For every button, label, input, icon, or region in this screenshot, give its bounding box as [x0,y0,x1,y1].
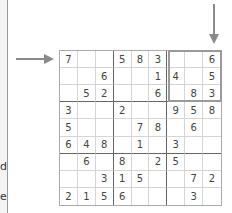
column-indicator-arrow-icon [213,4,215,34]
sudoku-cell[interactable] [167,171,185,188]
sudoku-cell[interactable]: 7 [60,51,78,68]
sudoku-cell[interactable] [185,154,203,171]
sudoku-cell[interactable]: 3 [60,102,78,119]
sudoku-cell[interactable]: 2 [96,85,114,102]
sudoku-cell[interactable]: 4 [167,68,185,85]
sudoku-cell[interactable] [167,119,185,136]
sudoku-cell[interactable] [60,154,78,171]
sudoku-cell[interactable]: 8 [149,119,167,136]
sudoku-cell[interactable] [149,137,167,154]
left-panel-strip [0,0,8,213]
sudoku-cell[interactable] [149,188,167,205]
sudoku-cell[interactable]: 6 [114,188,132,205]
sudoku-cell[interactable]: 3 [96,171,114,188]
sudoku-cell[interactable]: 4 [78,137,96,154]
sudoku-cell[interactable] [78,171,96,188]
sudoku-cell[interactable]: 6 [149,85,167,102]
sudoku-cell[interactable] [96,154,114,171]
sudoku-cell[interactable] [203,154,221,171]
sudoku-cell[interactable]: 3 [203,85,221,102]
sudoku-cell[interactable]: 2 [60,188,78,205]
sudoku-cell[interactable] [60,68,78,85]
sudoku-cell[interactable] [60,85,78,102]
sudoku-cell[interactable] [132,154,150,171]
sudoku-cell[interactable]: 5 [185,102,203,119]
sudoku-cell[interactable] [167,188,185,205]
sudoku-cell[interactable] [132,68,150,85]
sudoku-cell[interactable]: 5 [96,188,114,205]
sudoku-cell[interactable]: 2 [149,154,167,171]
sudoku-cell[interactable]: 9 [167,102,185,119]
sudoku-cell[interactable]: 5 [132,171,150,188]
sudoku-cell[interactable] [149,171,167,188]
sudoku-cell[interactable] [114,137,132,154]
sudoku-cell[interactable]: 2 [203,171,221,188]
sudoku-cell[interactable] [132,85,150,102]
sudoku-cell[interactable]: 5 [78,85,96,102]
sudoku-cell[interactable]: 3 [185,188,203,205]
sudoku-cell[interactable] [96,119,114,136]
sudoku-cell[interactable]: 3 [149,51,167,68]
sudoku-cell[interactable] [78,51,96,68]
sidebar-text-fragment: d [0,160,7,173]
sudoku-cell[interactable]: 5 [60,119,78,136]
sudoku-cell[interactable]: 1 [132,137,150,154]
sudoku-cell[interactable]: 6 [60,137,78,154]
sudoku-cell[interactable] [185,68,203,85]
sudoku-cell[interactable]: 6 [78,154,96,171]
sudoku-cell[interactable] [149,102,167,119]
sudoku-cell[interactable] [203,119,221,136]
sudoku-cell[interactable]: 5 [167,154,185,171]
sudoku-cell[interactable]: 5 [114,51,132,68]
sudoku-cell[interactable]: 8 [203,102,221,119]
sudoku-cell[interactable]: 8 [96,137,114,154]
sudoku-cell[interactable] [96,102,114,119]
sudoku-cell[interactable]: 3 [167,137,185,154]
sudoku-cell[interactable] [114,68,132,85]
sudoku-cell[interactable]: 8 [132,51,150,68]
sudoku-cell[interactable]: 8 [185,85,203,102]
sudoku-cell[interactable]: 2 [114,102,132,119]
sudoku-cell[interactable]: 1 [149,68,167,85]
sudoku-cell[interactable] [132,102,150,119]
sudoku-cell[interactable] [167,85,185,102]
sudoku-cell[interactable] [185,137,203,154]
sudoku-cell[interactable] [96,51,114,68]
sudoku-cell[interactable] [132,188,150,205]
sudoku-cell[interactable]: 1 [78,188,96,205]
sudoku-cell[interactable]: 1 [114,171,132,188]
sudoku-cell[interactable] [167,51,185,68]
sudoku-cell[interactable] [78,119,96,136]
sudoku-cell[interactable]: 7 [132,119,150,136]
row-indicator-arrow-icon [16,58,44,60]
sudoku-grid: 7583661455268332958578664813682531572215… [59,50,222,206]
sudoku-cell[interactable]: 5 [203,68,221,85]
sudoku-cell[interactable]: 6 [203,51,221,68]
sudoku-cell[interactable] [203,188,221,205]
sudoku-cell[interactable] [114,85,132,102]
sudoku-cell[interactable] [60,171,78,188]
sudoku-cell[interactable]: 7 [185,171,203,188]
sudoku-cell[interactable]: 6 [185,119,203,136]
sudoku-cell[interactable] [78,102,96,119]
sudoku-cell[interactable] [185,51,203,68]
sudoku-cell[interactable] [203,137,221,154]
sudoku-cell[interactable] [78,68,96,85]
sudoku-cell[interactable] [114,119,132,136]
sidebar-text-fragment: e [0,190,7,203]
sudoku-cell[interactable]: 6 [96,68,114,85]
sudoku-cell[interactable]: 8 [114,154,132,171]
